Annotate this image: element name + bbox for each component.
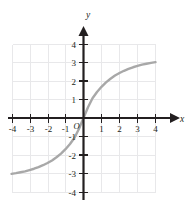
- y-axis-label: y: [85, 10, 91, 20]
- x-tick-label: 3: [135, 124, 140, 134]
- y-tick-label: -2: [69, 151, 77, 161]
- y-tick-label: -4: [69, 188, 77, 198]
- x-axis-arrowhead: [170, 113, 180, 123]
- y-tick-label: 4: [72, 40, 77, 50]
- origin-label: O: [73, 121, 79, 131]
- x-axis-label: x: [179, 114, 185, 124]
- y-tick-label: 3: [72, 58, 77, 68]
- x-tick-label: 2: [117, 124, 122, 134]
- x-tick-label: -3: [27, 124, 35, 134]
- y-tick-label: -3: [69, 169, 77, 179]
- chart-figure: -4 -3 -2 -1 1 2 3 4 4 3 2 1 -1 -2 -3 -4 …: [0, 0, 188, 208]
- y-tick-label: -1: [69, 132, 77, 142]
- x-tick-label: -2: [45, 124, 53, 134]
- coordinate-plane: -4 -3 -2 -1 1 2 3 4 4 3 2 1 -1 -2 -3 -4 …: [0, 0, 188, 208]
- x-tick-label: -4: [9, 124, 17, 134]
- x-tick-label: 1: [99, 124, 104, 134]
- x-tick-label: 4: [153, 124, 158, 134]
- axes: [8, 36, 170, 200]
- y-tick-label: 2: [72, 77, 77, 87]
- y-tick-label: 1: [72, 95, 77, 105]
- y-axis-arrowhead: [79, 26, 89, 36]
